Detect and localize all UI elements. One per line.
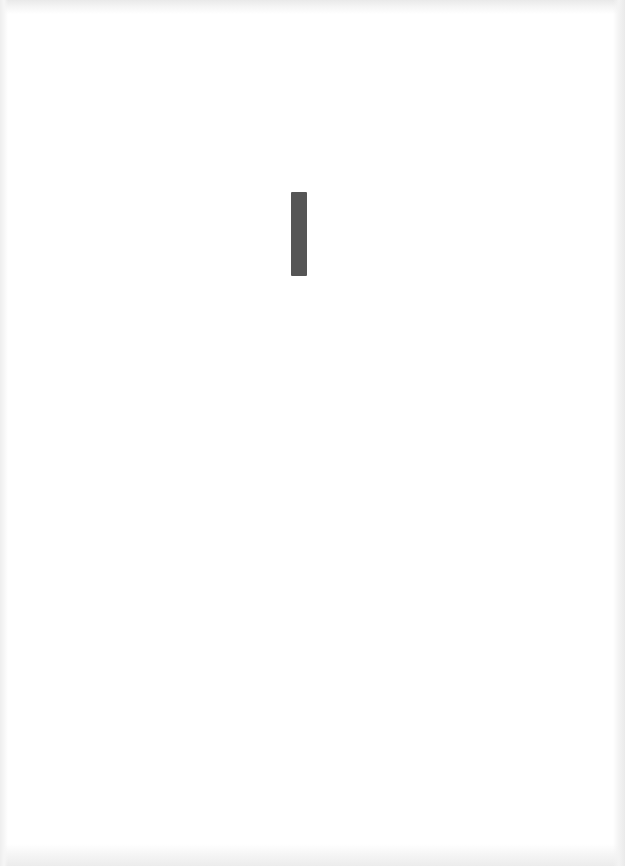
scan-edge-bottom xyxy=(0,844,625,866)
vertical-bar-mark xyxy=(291,192,307,276)
scan-edge-left xyxy=(0,0,8,866)
scanned-page xyxy=(0,0,625,866)
scan-edge-right xyxy=(613,0,625,866)
scan-edge-top xyxy=(0,0,625,14)
